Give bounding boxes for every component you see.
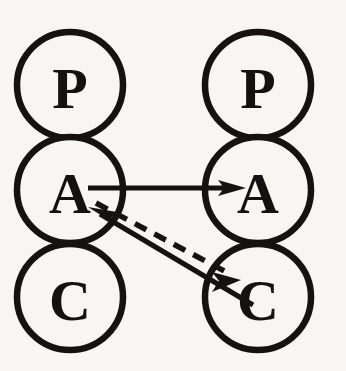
diagram-canvas: P A C P A C xyxy=(0,0,346,371)
node-label: P xyxy=(240,56,275,121)
pac-diagram: P A C P A C xyxy=(0,0,346,371)
node-label: C xyxy=(49,268,91,333)
agent-column-right: P A C xyxy=(205,32,311,350)
node-label: A xyxy=(237,161,279,226)
node-right-c[interactable]: C xyxy=(205,244,311,350)
node-left-p[interactable]: P xyxy=(17,32,123,138)
node-label: A xyxy=(49,161,91,226)
node-right-p[interactable]: P xyxy=(205,32,311,138)
node-label: P xyxy=(52,56,87,121)
node-left-c[interactable]: C xyxy=(17,244,123,350)
agent-column-left: P A C xyxy=(17,32,123,350)
